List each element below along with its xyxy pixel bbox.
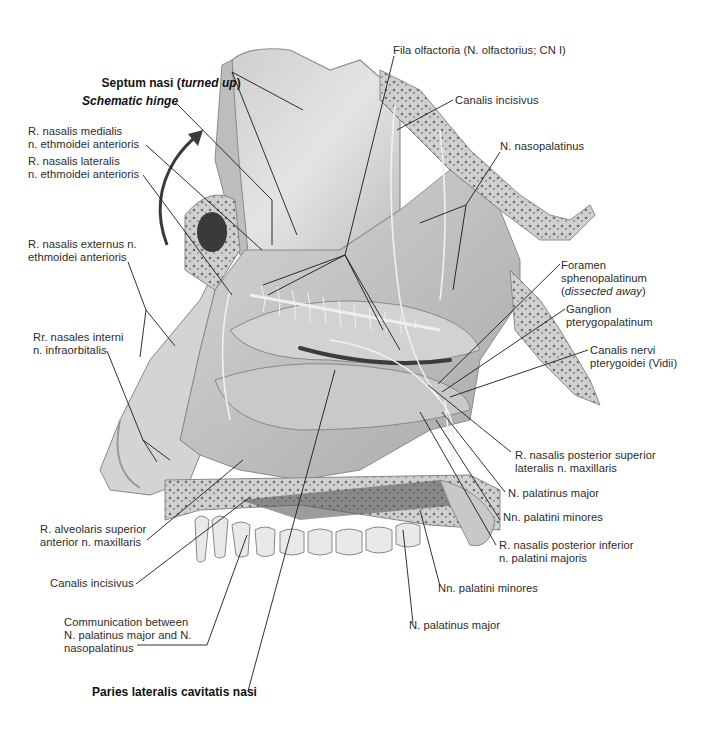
label-r-nasalis-lateralis: R. nasalis lateralis n. ethmoidei anteri…	[28, 155, 139, 181]
label-r-nasalis-posterior-inferior: R. nasalis posterior inferior n. palatin…	[499, 539, 634, 565]
label-n-nasopalatinus: N. nasopalatinus	[500, 140, 584, 153]
label-schematic-hinge: Schematic hinge	[82, 95, 178, 108]
label-fila-olfactoria: Fila olfactoria (N. olfactorius; CN I)	[393, 44, 566, 57]
label-r-nasalis-posterior-superior: R. nasalis posterior superior lateralis …	[515, 449, 656, 475]
label-rr-nasales-interni: Rr. nasales interni n. infraorbitalis	[33, 331, 124, 357]
teeth	[195, 516, 420, 562]
label-foramen-sphenopalatinum: Foramen sphenopalatinum (dissected away)	[561, 259, 647, 298]
label-r-alveolaris-superior: R. alveolaris superior anterior n. maxil…	[40, 523, 146, 549]
label-canalis-incisivus-top: Canalis incisivus	[455, 94, 539, 107]
label-foramen-close: )	[642, 285, 646, 297]
label-n-palatinus-major-bottom: N. palatinus major	[409, 619, 500, 632]
label-foramen-italic: dissected away	[565, 285, 642, 297]
label-r-nasalis-medialis: R. nasalis medialis n. ethmoidei anterio…	[28, 125, 139, 151]
label-n-palatinus-major-right: N. palatinus major	[508, 487, 599, 500]
label-canalis-nervi-pterygoidei: Canalis nervi pterygoidei (Vidii)	[590, 344, 677, 370]
label-septum-nasi-italic: turned up	[181, 76, 237, 90]
label-ganglion-pterygopalatinum: Ganglion pterygopalatinum	[566, 303, 653, 329]
label-r-nasalis-externus: R. nasalis externus n. ethmoidei anterio…	[28, 238, 137, 264]
anatomy-figure: Septum nasi (turned up) Schematic hinge …	[0, 0, 717, 731]
label-paries-lateralis: Paries lateralis cavitatis nasi	[92, 686, 257, 699]
label-canalis-incisivus-bottom: Canalis incisivus	[50, 577, 134, 590]
label-septum-nasi-main: Septum nasi (	[102, 76, 181, 90]
label-nn-palatini-minores-right: Nn. palatini minores	[503, 511, 603, 524]
label-nn-palatini-minores-bottom: Nn. palatini minores	[438, 582, 538, 595]
label-septum-nasi-close: )	[237, 76, 241, 90]
label-communication: Communication between N. palatinus major…	[64, 616, 191, 655]
